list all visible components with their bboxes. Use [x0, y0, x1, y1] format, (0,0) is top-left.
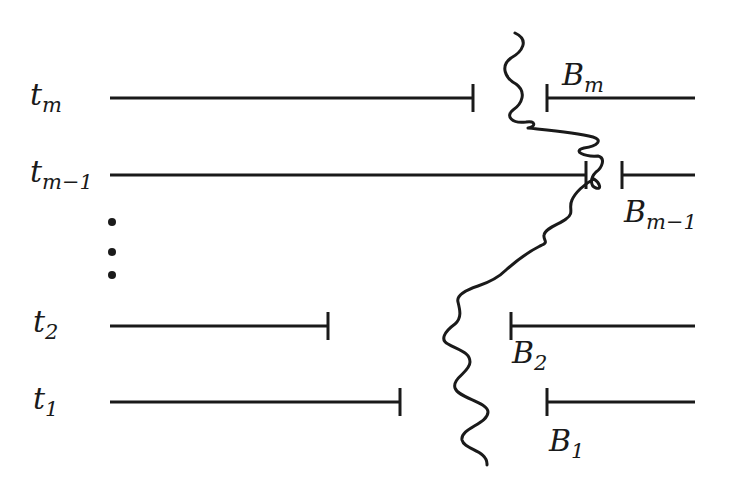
label-subscript: m	[42, 93, 62, 117]
label-base: B	[549, 423, 571, 458]
label-t-m: tm	[30, 80, 62, 116]
label-base: B	[562, 57, 584, 92]
label-subscript: m	[584, 73, 604, 97]
label-base: t	[33, 304, 45, 339]
label-subscript: 1	[45, 397, 58, 421]
label-subscript: m−1	[646, 210, 697, 234]
vertical-ellipsis-icon	[108, 218, 116, 279]
label-base: t	[33, 381, 45, 416]
label-base: B	[624, 194, 646, 229]
label-subscript: 2	[45, 320, 58, 344]
label-subscript: 2	[534, 351, 547, 375]
label-subscript: 1	[571, 439, 584, 463]
diagram-canvas	[0, 0, 735, 499]
label-B-m: Bm	[562, 60, 604, 96]
label-t-2: t2	[33, 307, 58, 343]
label-B-2: B2	[512, 338, 547, 374]
boundary-diagram: tm tm−1 t2 t1 Bm Bm−1 B2 B1	[0, 0, 735, 499]
label-base: t	[30, 154, 42, 189]
label-subscript: m−1	[42, 170, 93, 194]
label-base: t	[30, 77, 42, 112]
label-B-m-minus-1: Bm−1	[624, 197, 697, 233]
label-t-1: t1	[33, 384, 58, 420]
label-base: B	[512, 335, 534, 370]
label-t-m-minus-1: tm−1	[30, 157, 93, 193]
label-B-1: B1	[549, 426, 584, 462]
